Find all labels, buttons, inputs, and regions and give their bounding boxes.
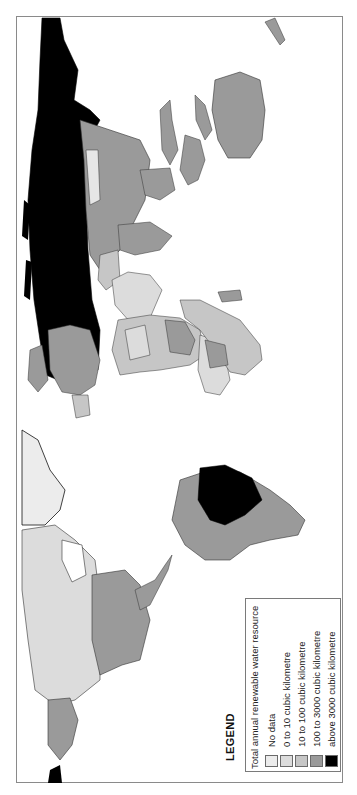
- swatch-above-3000: [325, 755, 338, 767]
- swatch-no-data: [265, 755, 278, 767]
- region-mexico: [135, 555, 172, 610]
- legend-item-100-3000: 100 to 3000 cubic kilometre: [309, 631, 323, 767]
- region-united-states: [92, 570, 150, 675]
- region-new-guinea: [195, 95, 212, 140]
- region-iberia: [72, 395, 90, 418]
- region-new-zealand: [265, 18, 285, 45]
- region-southeast-asia: [140, 168, 175, 200]
- legend-item-no-data: No data: [264, 714, 278, 767]
- region-greenland: [22, 430, 65, 525]
- region-indonesia: [180, 135, 205, 185]
- legend-item-10-100: 10 to 100 cubic kilometre: [294, 641, 308, 767]
- legend-subtitle: Total annual renewable water resource: [249, 606, 260, 769]
- legend-item-above-3000: above 3000 cubic kilometre: [324, 631, 338, 767]
- legend-item-0-10: 0 to 10 cubic kilometre: [279, 652, 293, 767]
- region-middle-east: [112, 272, 162, 322]
- region-japan: [160, 100, 178, 165]
- swatch-0-10: [280, 755, 293, 767]
- region-madagascar: [218, 290, 242, 302]
- region-alaska: [48, 698, 78, 760]
- map-legend: LEGEND Total annual renewable water reso…: [245, 598, 341, 772]
- swatch-10-100: [295, 755, 308, 767]
- region-chukotka: [48, 765, 62, 783]
- swatch-100-3000: [310, 755, 323, 767]
- region-india: [118, 222, 172, 255]
- region-canada: [22, 525, 100, 705]
- region-australia: [212, 72, 265, 158]
- legend-title: LEGEND: [224, 713, 236, 761]
